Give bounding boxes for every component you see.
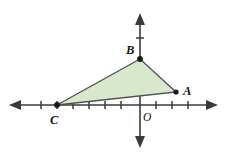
vertex-dot-c [54, 102, 60, 108]
x-axis-left-arrow-icon [9, 100, 21, 110]
vertex-label-a: A [182, 84, 191, 98]
vertex-label-c: C [50, 113, 59, 127]
origin-label: O [143, 111, 152, 123]
x-axis-group [9, 100, 218, 110]
coordinate-figure: A B C O [0, 0, 227, 155]
vertex-dot-b [137, 56, 143, 62]
vertex-label-b: B [125, 43, 134, 57]
x-axis-right-arrow-icon [206, 100, 218, 110]
y-axis-down-arrow-icon [135, 136, 145, 148]
y-axis-up-arrow-icon [135, 13, 145, 25]
vertex-dot-a [173, 89, 178, 94]
triangle-abc [57, 59, 176, 105]
coordinate-plane: A B C O [0, 0, 227, 155]
